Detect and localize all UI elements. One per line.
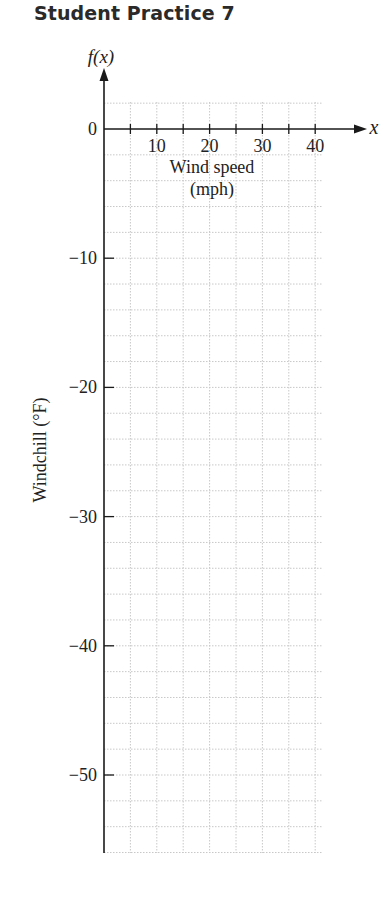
x-tick-label: 10: [148, 136, 166, 156]
x-axis-title-line1: Wind speed: [170, 157, 255, 177]
y-tick-label: −40: [69, 636, 97, 656]
chart: f(x) x Wind speed (mph) Windchill (°F) 1…: [0, 0, 382, 900]
x-axis-title-line2: (mph): [190, 179, 234, 200]
x-tick-label: 30: [253, 136, 271, 156]
axis-labels: f(x) x Wind speed (mph) Windchill (°F) 1…: [30, 46, 379, 785]
x-tick-label: 40: [306, 136, 324, 156]
x-tick-label: 20: [201, 136, 219, 156]
x-axis-symbol: x: [369, 116, 379, 138]
x-axis-arrow-icon: [354, 125, 367, 134]
ticks: [104, 124, 315, 775]
y-tick-label: −50: [69, 765, 97, 785]
y-tick-label: 0: [88, 119, 97, 139]
y-tick-label: −10: [69, 248, 97, 268]
y-axis-title: Windchill (°F): [30, 398, 51, 503]
grid-lines: [104, 102, 323, 853]
y-tick-label: −20: [69, 377, 97, 397]
y-axis-symbol: f(x): [88, 46, 114, 68]
y-tick-label: −30: [69, 507, 97, 527]
y-axis-arrow-icon: [100, 68, 109, 81]
